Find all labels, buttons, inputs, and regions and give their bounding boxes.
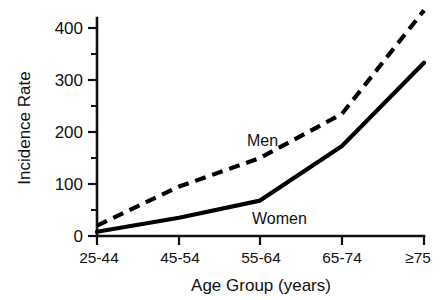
x-tick-label-65-74: 65-74 xyxy=(322,249,362,266)
incidence-rate-line-chart: 0 100 200 300 400 25-44 45-54 55-64 65-7… xyxy=(0,0,443,300)
y-tick-label-300: 300 xyxy=(55,71,83,90)
chart-screenshot: 0 100 200 300 400 25-44 45-54 55-64 65-7… xyxy=(0,0,443,300)
x-tick-label-75plus: ≥75 xyxy=(405,249,431,266)
y-tick-label-200: 200 xyxy=(55,123,83,142)
x-tick-label-45-54: 45-54 xyxy=(160,249,200,266)
series-label-women: Women xyxy=(252,210,307,227)
x-tick-label-25-44: 25-44 xyxy=(79,249,119,266)
x-axis-title: Age Group (years) xyxy=(191,276,331,295)
y-tick-label-100: 100 xyxy=(55,175,83,194)
y-tick-label-0: 0 xyxy=(74,227,83,246)
y-tick-label-400: 400 xyxy=(55,19,83,38)
series-label-men: Men xyxy=(247,132,278,149)
x-tick-label-55-64: 55-64 xyxy=(241,249,281,266)
chart-background xyxy=(0,0,443,300)
y-axis-title: Incidence Rate xyxy=(15,71,34,184)
